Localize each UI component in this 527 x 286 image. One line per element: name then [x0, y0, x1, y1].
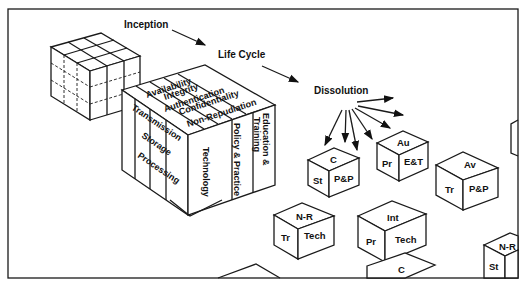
svg-text:Tech: Tech — [395, 234, 417, 245]
small-cube-int-pr-tech: Int Pr Tech — [358, 201, 426, 262]
svg-text:Int: Int — [387, 212, 399, 223]
arrow-icon — [262, 66, 298, 82]
small-cube-nr-st-partial: N-R St — [484, 233, 518, 278]
label-policy-practice: Policy & Practice — [232, 123, 242, 196]
svg-text:St: St — [313, 175, 323, 186]
svg-text:Tr: Tr — [445, 184, 454, 195]
svg-text:N-R: N-R — [499, 241, 516, 252]
mccumber-cube-diagram: Inception Life Cycle Dissolution — [0, 0, 527, 286]
svg-text:P&P: P&P — [334, 173, 354, 184]
arrow-icon — [172, 30, 205, 45]
phase-dissolution: Dissolution — [314, 85, 368, 96]
main-cube: Availability Integrity Authentication Co… — [122, 65, 275, 215]
small-cube-nr-tr-tech: N-R Tr Tech — [274, 203, 334, 259]
svg-text:Tr: Tr — [281, 232, 290, 243]
label-training: Training — [252, 117, 262, 152]
svg-text:P&P: P&P — [469, 183, 489, 194]
phase-inception: Inception — [124, 19, 168, 30]
partial-cube-right-edge — [511, 120, 518, 156]
svg-text:C: C — [398, 264, 405, 275]
small-cube-au-pr-et: Au Pr E&T — [377, 131, 428, 181]
phase-life-cycle: Life Cycle — [218, 49, 266, 60]
svg-text:Au: Au — [397, 137, 410, 148]
svg-text:St: St — [489, 261, 499, 272]
svg-text:E&T: E&T — [404, 156, 423, 167]
svg-text:Tech: Tech — [304, 230, 326, 241]
svg-text:Av: Av — [464, 159, 477, 170]
label-technology: Technology — [201, 147, 211, 197]
small-cube-c-st-pp: C St P&P — [308, 148, 359, 197]
svg-text:Pr: Pr — [382, 158, 392, 169]
svg-text:C: C — [330, 154, 337, 165]
svg-text:N-R: N-R — [296, 211, 313, 222]
svg-text:Pr: Pr — [366, 236, 376, 247]
small-cube-av-tr-pp: Av Tr P&P — [436, 152, 498, 210]
